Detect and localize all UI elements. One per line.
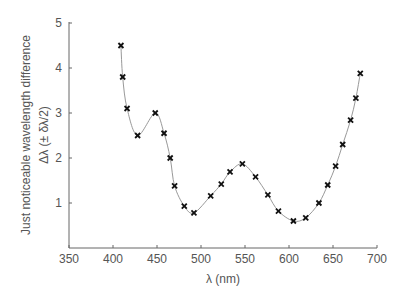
x-marker bbox=[162, 131, 167, 136]
data-points bbox=[118, 43, 362, 224]
x-tick-label: 700 bbox=[367, 252, 387, 266]
x-tick-label: 350 bbox=[59, 252, 79, 266]
x-marker bbox=[325, 183, 330, 188]
x-tick-label: 650 bbox=[323, 252, 343, 266]
x-tick-label: 500 bbox=[191, 252, 211, 266]
svg-text:Δλ (± δλ/2): Δλ (± δλ/2) bbox=[37, 106, 51, 164]
y-axis-label-formula: Δλ (± δλ/2) bbox=[37, 106, 51, 164]
x-marker bbox=[276, 209, 281, 214]
y-tick-label: 5 bbox=[55, 16, 62, 30]
x-tick-label: 400 bbox=[103, 252, 123, 266]
y-tick-label: 3 bbox=[55, 106, 62, 120]
x-marker bbox=[208, 193, 213, 198]
x-tick-label: 600 bbox=[279, 252, 299, 266]
x-marker bbox=[135, 133, 140, 138]
y-tick-label: 2 bbox=[55, 151, 62, 165]
x-tick-label: 450 bbox=[147, 252, 167, 266]
x-marker bbox=[303, 215, 308, 220]
x-marker bbox=[182, 204, 187, 209]
axes: 35040045050055060065070012345 bbox=[55, 16, 387, 266]
x-marker bbox=[153, 111, 158, 116]
x-marker bbox=[228, 169, 233, 174]
y-tick-label: 1 bbox=[55, 196, 62, 210]
x-marker bbox=[333, 164, 338, 169]
svg-text:Just noticeable wavelength dif: Just noticeable wavelength difference bbox=[19, 35, 33, 235]
y-axis-label: Just noticeable wavelength difference bbox=[19, 35, 33, 235]
chart: 35040045050055060065070012345 λ (nm) Jus… bbox=[0, 0, 404, 292]
x-marker bbox=[340, 142, 345, 147]
x-marker bbox=[265, 192, 270, 197]
y-tick-label: 4 bbox=[55, 61, 62, 75]
x-marker bbox=[253, 174, 258, 179]
x-axis-label: λ (nm) bbox=[206, 272, 240, 286]
x-marker bbox=[316, 201, 321, 206]
fit-curve bbox=[121, 46, 360, 222]
x-marker bbox=[219, 182, 224, 187]
x-tick-label: 550 bbox=[235, 252, 255, 266]
